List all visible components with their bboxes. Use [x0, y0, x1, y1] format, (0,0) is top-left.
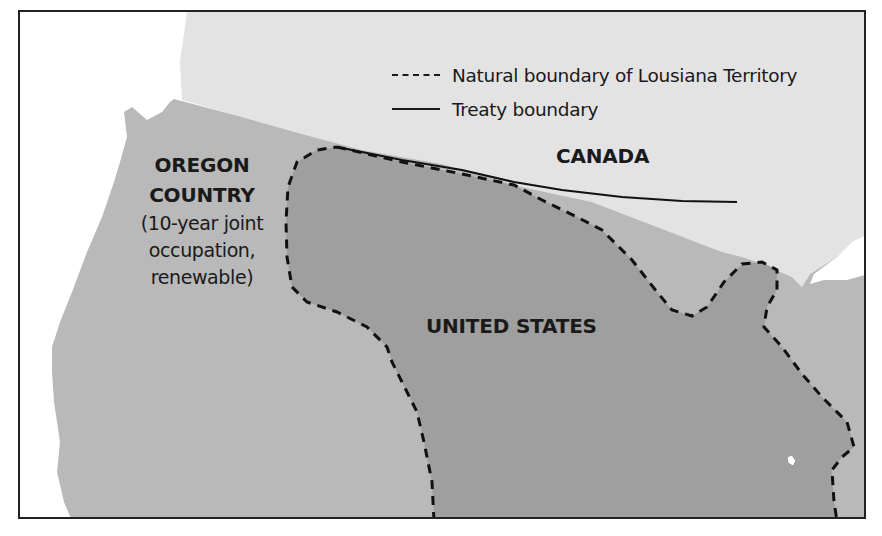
oregon-country-label: OREGON COUNTRY (10-year joint occupation…	[102, 150, 302, 291]
legend-label: Treaty boundary	[452, 99, 598, 120]
oregon-title-line1: OREGON	[102, 150, 302, 180]
map-frame: Natural boundary of Lousiana Territory T…	[18, 10, 866, 519]
legend: Natural boundary of Lousiana Territory T…	[392, 58, 797, 126]
oregon-title-line2: COUNTRY	[102, 180, 302, 210]
canada-label: CANADA	[556, 144, 649, 168]
solid-line-icon	[392, 108, 440, 110]
oregon-note-line1: (10-year joint	[102, 210, 302, 237]
oregon-note-line3: renewable)	[102, 264, 302, 291]
oregon-note-line2: occupation,	[102, 237, 302, 264]
dashed-line-icon	[392, 74, 440, 76]
legend-item-natural-boundary: Natural boundary of Lousiana Territory	[392, 58, 797, 92]
legend-label: Natural boundary of Lousiana Territory	[452, 65, 797, 86]
united-states-label: UNITED STATES	[426, 314, 597, 338]
legend-item-treaty-boundary: Treaty boundary	[392, 92, 797, 126]
